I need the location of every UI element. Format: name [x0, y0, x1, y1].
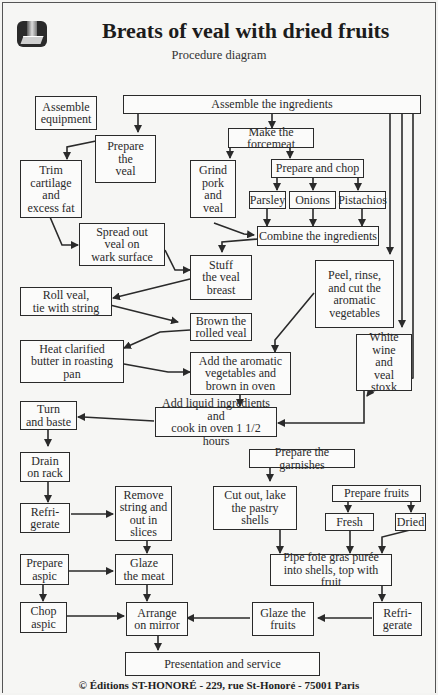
node-pipe-foie-gras: Pipe foie gras purée into shells, top wi… [270, 554, 392, 586]
footer-copyright: © Éditions ST-HONORÉ - 229, rue St-Honor… [0, 679, 438, 691]
node-combine-ingredients: Combine the ingredients [257, 226, 379, 246]
node-heat-butter: Heat clarified butter in roasting pan [20, 340, 124, 383]
node-dried: Dried [395, 513, 426, 531]
node-prepare-aspic: Prepare aspic [20, 554, 69, 585]
node-cut-pastry: Cut out, lake the pastry shells [213, 486, 297, 530]
node-add-liquid: Add liquid ingredients and cook in oven … [155, 407, 277, 437]
node-drain-rack: Drain on rack [20, 452, 70, 482]
node-turn-baste: Turn and baste [20, 401, 77, 430]
node-prepare-fruits: Prepare fruits [332, 485, 421, 502]
node-grind-pork: Grind pork and veal [190, 160, 236, 218]
node-peel-rinse: Peel, rinse, and cut the aromatic vegeta… [315, 260, 394, 328]
node-roll-veal: Roll veal, tie with string [20, 287, 112, 316]
node-glaze-meat: Glaze the meat [115, 554, 173, 585]
node-prepare-garnishes: Prepare the garnishes [249, 449, 355, 468]
node-glaze-fruits: Glaze the fruits [252, 602, 314, 636]
node-arrange-mirror: Arrange on mirror [126, 602, 188, 636]
node-chop-aspic: Chop aspic [20, 602, 67, 633]
node-assemble-ingredients: Assemble the ingredients [123, 95, 421, 114]
node-refrigerate-1: Refri- gerate [20, 503, 70, 533]
node-add-aromatic: Add the aromatic vegetables and brown in… [190, 352, 291, 395]
node-trim-cartilage: Trim cartilage and excess fat [20, 160, 82, 218]
node-onions: Onions [289, 191, 336, 209]
node-presentation: Presentation and service [125, 652, 320, 676]
node-remove-string: Remove string and out in slices [115, 486, 172, 541]
node-pistachios: Pistachios [339, 191, 386, 209]
node-make-forcemeat: Make the forcemeat [228, 128, 314, 148]
node-prepare-chop: Prepare and chop [271, 159, 364, 178]
node-brown-rolled: Brown the rolled veal [190, 313, 252, 341]
node-assemble-equipment: Assemble equipment [35, 96, 97, 130]
node-prepare-veal: Prepare the veal [95, 135, 156, 183]
node-spread-veal: Spread out veal on wark surface [79, 223, 165, 266]
node-refrigerate-2: Refri- gerate [373, 602, 422, 636]
node-white-wine: White wine and veal stoxk [356, 334, 412, 391]
node-stuff-breast: Stuff the veal breast [190, 255, 252, 300]
node-parsley: Parsley [249, 191, 286, 209]
node-fresh: Fresh [325, 513, 374, 531]
